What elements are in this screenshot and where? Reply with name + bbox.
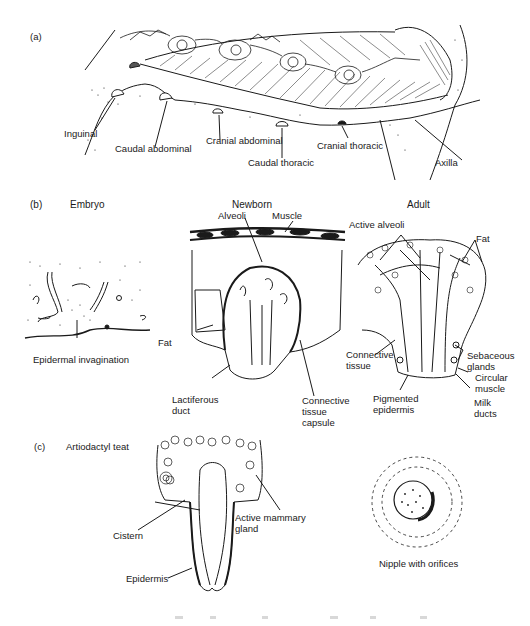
artiodactyl-teat-title: Artiodactyl teat <box>66 441 129 452</box>
label-epidermis: Epidermis <box>126 573 168 584</box>
label-cistern: Cistern <box>113 530 143 541</box>
nipple-orifices <box>372 457 462 547</box>
panel-c-marker: (c) <box>34 441 45 452</box>
label-nipple-with-orifices: Nipple with orifices <box>379 558 458 569</box>
label-active-mammary-gland: Active mammary gland <box>235 512 306 534</box>
